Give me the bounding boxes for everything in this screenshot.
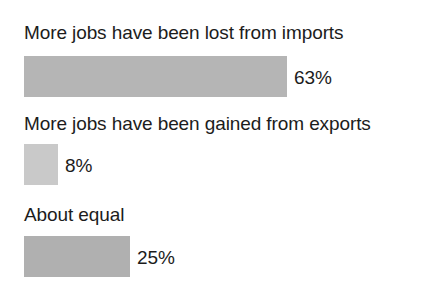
bar-rect bbox=[24, 56, 287, 97]
bar-value-label: 8% bbox=[65, 155, 92, 177]
bar-row: 8% bbox=[24, 144, 92, 185]
bar-row: 63% bbox=[24, 56, 332, 97]
bar-category-label: More jobs have been lost from imports bbox=[24, 22, 343, 44]
bar-value-label: 25% bbox=[137, 247, 175, 269]
bar-category-label: About equal bbox=[24, 204, 124, 226]
bar-rect bbox=[24, 144, 58, 185]
bar-value-label: 63% bbox=[294, 67, 332, 89]
bar-chart: More jobs have been lost from imports 63… bbox=[0, 0, 431, 294]
bar-row: 25% bbox=[24, 236, 175, 277]
bar-category-label: More jobs have been gained from exports bbox=[24, 113, 371, 135]
bar-rect bbox=[24, 236, 130, 277]
